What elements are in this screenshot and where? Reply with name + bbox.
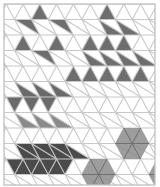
diagonal-grid-line <box>65 35 73 51</box>
diagonal-grid-line <box>57 97 65 113</box>
diagonal-grid-line <box>107 97 115 113</box>
diagonal-grid-line <box>23 4 31 20</box>
diagonal-grid-line <box>157 35 160 51</box>
diagonal-grid-line <box>73 159 81 175</box>
diagonal-grid-line <box>149 66 157 82</box>
diagonal-grid-line <box>0 97 6 113</box>
filled-triangle <box>31 4 48 20</box>
single-triangle-top-left <box>31 4 48 20</box>
diagonal-grid-line <box>73 35 81 51</box>
diagonal-grid-line <box>23 128 31 144</box>
diagonal-grid-line <box>6 4 14 20</box>
diagonal-grid-line <box>99 128 107 144</box>
diagonal-grid-line <box>115 97 123 113</box>
diagonal-grid-line <box>0 51 6 67</box>
diagonal-grid-line <box>57 128 65 144</box>
diagonal-grid-line <box>0 35 6 51</box>
hexagon-bottom <box>82 159 116 187</box>
diagonal-grid-line <box>82 4 90 20</box>
diagonal-grid-line <box>149 35 157 51</box>
filled-triangle <box>99 4 116 20</box>
diagonal-grid-line <box>0 144 6 160</box>
diagonal-grid-line <box>57 4 65 20</box>
filled-triangle <box>99 35 116 51</box>
filled-triangle <box>6 97 23 113</box>
diagonal-grid-line <box>149 97 157 113</box>
diagonal-grid-line <box>141 97 149 113</box>
diagonal-grid-line <box>48 66 56 82</box>
diagonal-grid-line <box>99 97 107 113</box>
diagonal-grid-line <box>0 113 6 129</box>
diagonal-grid-line <box>31 128 39 144</box>
diagonal-grid-line <box>141 4 149 20</box>
filled-triangle <box>65 66 82 82</box>
diagonal-grid-line <box>157 128 160 144</box>
diagonal-grid-line <box>65 4 73 20</box>
diagonal-grid-line <box>0 82 6 98</box>
filled-triangle <box>115 35 132 51</box>
diagonal-grid-line <box>0 128 6 144</box>
diagonal-grid-line <box>15 66 23 82</box>
diagonal-grid-line <box>31 35 39 51</box>
filled-triangle <box>23 97 40 113</box>
diagonal-grid-line <box>149 4 157 20</box>
diagonal-grid-line <box>65 128 73 144</box>
diagonal-grid-line <box>124 97 132 113</box>
diagonal-grid-line <box>31 66 39 82</box>
diagonal-grid-line <box>57 66 65 82</box>
diagonal-grid-line <box>48 128 56 144</box>
diagonal-grid-line <box>6 66 14 82</box>
filled-triangle <box>132 66 149 82</box>
diagonal-grid-line <box>40 128 48 144</box>
diagonal-grid-line <box>73 97 81 113</box>
diagonal-grid-line <box>90 4 98 20</box>
diagonal-grid-line <box>157 97 160 113</box>
filled-triangle <box>82 66 99 82</box>
hexagon-fill <box>82 159 116 187</box>
hexagon-spoke <box>157 159 160 187</box>
diagonal-grid-line <box>0 4 6 20</box>
diagonal-grid-line <box>15 4 23 20</box>
filled-triangle <box>48 35 65 51</box>
filled-triangle <box>40 97 57 113</box>
diagonal-grid-line <box>115 4 123 20</box>
diagonal-grid-line <box>132 97 140 113</box>
diagonal-grid-line <box>73 128 81 144</box>
diagonal-grid-line <box>132 4 140 20</box>
triangular-grid-figure <box>0 0 160 187</box>
diagonal-grid-line <box>73 4 81 20</box>
filled-triangle <box>15 35 32 51</box>
diagonal-grid-line <box>40 35 48 51</box>
diagonal-grid-line <box>0 20 6 36</box>
diagonal-grid-line <box>6 128 14 144</box>
diagonal-grid-line <box>124 159 132 175</box>
diagonal-grid-line <box>65 97 73 113</box>
diagonal-grid-line <box>90 128 98 144</box>
diagonal-grid-line <box>90 97 98 113</box>
diagonal-grid-line <box>141 35 149 51</box>
diagonal-grid-line <box>157 4 160 20</box>
diagonal-grid-line <box>132 35 140 51</box>
diagonal-grid-line <box>149 128 157 144</box>
diagonal-grid-line <box>124 4 132 20</box>
diagonal-grid-line <box>107 128 115 144</box>
diagonal-grid-line <box>0 66 6 82</box>
diagonal-grid-line <box>141 159 149 175</box>
diagonal-grid-line <box>48 4 56 20</box>
diagonal-grid-line <box>40 66 48 82</box>
diagonal-grid-line <box>82 128 90 144</box>
diagonal-grid-line <box>157 66 160 82</box>
hexagon-right <box>115 128 149 159</box>
filled-triangle <box>99 66 116 82</box>
diagonal-grid-line <box>82 97 90 113</box>
diagonal-grid-line <box>132 159 140 175</box>
diagonal-grid-line <box>15 128 23 144</box>
diagonal-grid-line <box>157 159 160 175</box>
triangle-grid-canvas <box>0 0 160 187</box>
hexagon-spoke <box>157 159 160 187</box>
diagonal-grid-line <box>6 35 14 51</box>
filled-triangle <box>82 35 99 51</box>
diagonal-grid-line <box>23 66 31 82</box>
diagonal-grid-line <box>0 159 6 175</box>
filled-triangle <box>115 66 132 82</box>
